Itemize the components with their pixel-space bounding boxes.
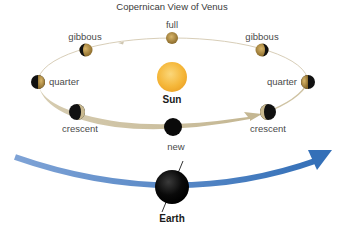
- venus-new-icon: [164, 118, 182, 136]
- venus-crescent-right-icon: [260, 104, 276, 120]
- venus-quarter-left-icon: [31, 75, 45, 89]
- label-crescent-left: crescent: [62, 124, 98, 134]
- label-gibbous-left: gibbous: [68, 32, 101, 42]
- label-gibbous-right: gibbous: [245, 32, 278, 42]
- label-earth: Earth: [159, 214, 185, 224]
- earth-icon: [155, 170, 189, 204]
- label-quarter-right: quarter: [267, 77, 297, 87]
- copernican-venus-diagram: Copernican View of Venus full gibbous gi…: [0, 0, 344, 236]
- label-quarter-left: quarter: [49, 77, 79, 87]
- label-full: full: [166, 20, 178, 30]
- label-sun: Sun: [163, 95, 182, 105]
- label-new: new: [167, 142, 184, 152]
- label-crescent-right: crescent: [250, 124, 286, 134]
- sun-icon: [157, 62, 187, 92]
- venus-gibbous-right-icon: [256, 44, 269, 57]
- venus-full-icon: [166, 32, 178, 44]
- venus-quarter-right-icon: [301, 75, 315, 89]
- diagram-graphics: [0, 0, 344, 236]
- venus-gibbous-left-icon: [80, 44, 93, 57]
- diagram-title: Copernican View of Venus: [116, 1, 227, 12]
- venus-crescent-left-icon: [69, 104, 85, 120]
